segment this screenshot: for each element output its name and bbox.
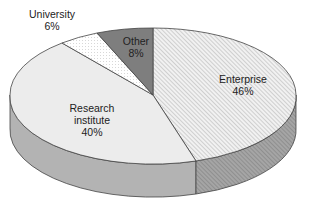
label-research-pct: 40% [57,126,127,138]
label-university-name: University [22,8,82,20]
label-university: University 6% [22,8,82,32]
label-university-pct: 6% [22,20,82,32]
label-research-institute: Research institute 40% [57,102,127,138]
label-other: Other 8% [116,35,156,59]
label-other-pct: 8% [116,47,156,59]
label-research-name-1: Research [57,102,127,114]
label-other-name: Other [116,35,156,47]
label-enterprise-pct: 46% [208,85,278,97]
label-enterprise: Enterprise 46% [208,73,278,97]
label-enterprise-name: Enterprise [208,73,278,85]
label-research-name-2: institute [57,114,127,126]
